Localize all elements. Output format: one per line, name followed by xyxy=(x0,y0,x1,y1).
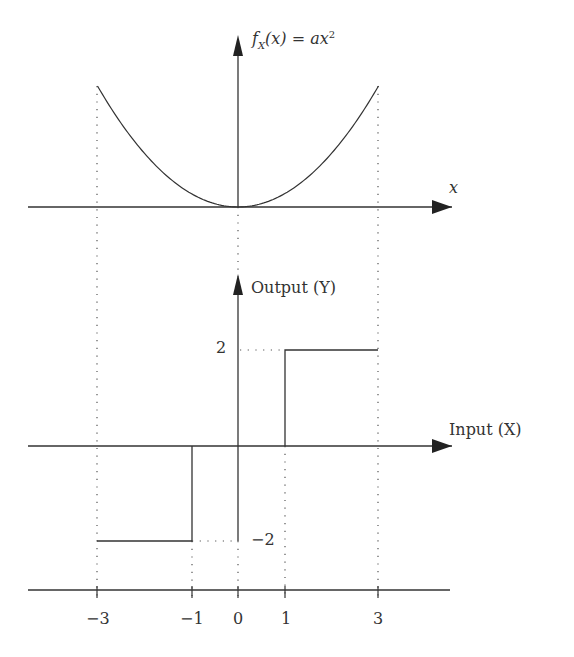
top-x-axis-label: x xyxy=(449,180,458,196)
y-tick-2: 2 xyxy=(216,340,226,356)
x-tick-3: 3 xyxy=(373,611,383,627)
step-left xyxy=(97,446,192,541)
x-tick-1: 1 xyxy=(281,611,291,627)
input-axis-label: Input (X) xyxy=(449,422,522,438)
x-tick-0: 0 xyxy=(233,611,243,627)
output-y-arrow-icon xyxy=(233,274,243,295)
top-x-arrow-icon xyxy=(432,200,452,214)
top-y-arrow-icon xyxy=(233,35,243,56)
x-tick-minus-1: −1 xyxy=(180,611,204,627)
shared-x-ticks xyxy=(97,586,378,598)
top-y-axis-label: fX(x) = ax2 xyxy=(252,30,335,51)
output-axis-label: Output (Y) xyxy=(251,280,336,296)
input-x-arrow-icon xyxy=(432,439,452,453)
step-right xyxy=(285,350,378,446)
x-tick-minus-3: −3 xyxy=(86,611,110,627)
y-tick-minus-2: −2 xyxy=(251,532,275,548)
diagram-canvas xyxy=(0,0,574,657)
diagram: fX(x) = ax2 x Output (Y) Input (X) 2 −2 … xyxy=(0,0,574,657)
